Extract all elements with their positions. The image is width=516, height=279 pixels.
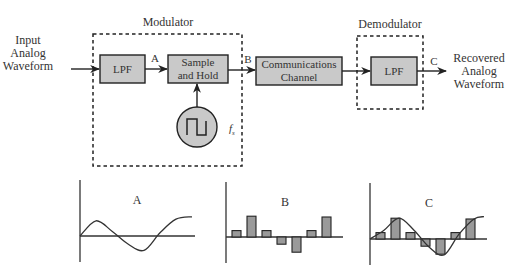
modulator-boundary xyxy=(93,34,242,166)
output-label: Recovered Analog Waveform xyxy=(453,51,504,91)
plot-b-pulse-6 xyxy=(307,231,316,237)
clock-oscillator xyxy=(177,107,217,147)
pam-block-diagram: Input Analog Waveform Modulator LPF A Sa… xyxy=(0,0,516,279)
plot-a-title: A xyxy=(133,193,142,207)
output-label-line-3: Waveform xyxy=(454,77,505,91)
plot-c-title: C xyxy=(425,196,433,210)
modulator-label: Modulator xyxy=(143,15,194,29)
output-label-line-1: Recovered xyxy=(453,51,504,65)
plot-c-pulse-3 xyxy=(406,233,415,239)
input-label-line-1: Input xyxy=(15,33,41,47)
clock-frequency-label: fs xyxy=(229,122,235,137)
plot-c-pulse-6 xyxy=(451,233,460,239)
input-label-line-3: Waveform xyxy=(3,59,54,73)
point-a-label: A xyxy=(151,52,159,64)
modulator-lpf-label: LPF xyxy=(113,63,132,75)
waveform-plot-a: A xyxy=(80,180,195,262)
plot-b-pulse-4 xyxy=(277,237,286,244)
output-label-line-2: Analog xyxy=(461,64,496,78)
point-b-label: B xyxy=(244,53,251,65)
plot-b-pulse-7 xyxy=(322,217,331,237)
plot-b-pulse-1 xyxy=(232,231,241,237)
plot-b-pulse-5 xyxy=(292,237,301,252)
plot-a-analog-curve xyxy=(80,217,192,251)
modulator-lpf-block: LPF xyxy=(100,55,145,83)
plot-b-title: B xyxy=(281,195,289,209)
demodulator-label: Demodulator xyxy=(358,17,421,31)
input-label-line-2: Analog xyxy=(10,46,45,60)
waveform-plot-c: C xyxy=(370,183,487,265)
plot-c-pulse-1 xyxy=(376,233,385,239)
demodulator-lpf-label: LPF xyxy=(385,65,404,77)
plot-b-pulse-3 xyxy=(262,231,271,237)
channel-label-line-2: Channel xyxy=(281,71,318,83)
plot-c-pulse-5 xyxy=(436,239,445,254)
input-label: Input Analog Waveform xyxy=(3,33,54,73)
point-c-label: C xyxy=(430,55,437,67)
plot-b-pulse-2 xyxy=(247,216,256,237)
demodulator-lpf-block: LPF xyxy=(371,57,417,85)
channel-label-line-1: Communications xyxy=(261,58,336,70)
sample-and-hold-block: Sample and Hold xyxy=(168,55,228,83)
sample-hold-label-line-2: and Hold xyxy=(178,69,219,81)
waveform-plot-b: B xyxy=(226,182,343,263)
communications-channel-block: Communications Channel xyxy=(256,57,342,85)
sample-hold-label-line-1: Sample xyxy=(182,56,215,68)
